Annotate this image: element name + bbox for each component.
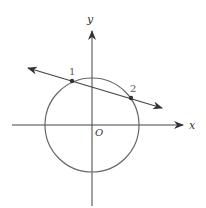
coordinate-diagram: y x O 1 2 xyxy=(0,0,206,208)
x-axis-label: x xyxy=(189,119,196,132)
secant-line xyxy=(95,88,162,108)
point-2-label: 2 xyxy=(130,83,136,94)
origin-label: O xyxy=(95,127,103,138)
point-1 xyxy=(70,79,74,83)
y-axis-label: y xyxy=(86,13,94,26)
point-2 xyxy=(129,96,133,100)
point-1-label: 1 xyxy=(69,66,75,77)
